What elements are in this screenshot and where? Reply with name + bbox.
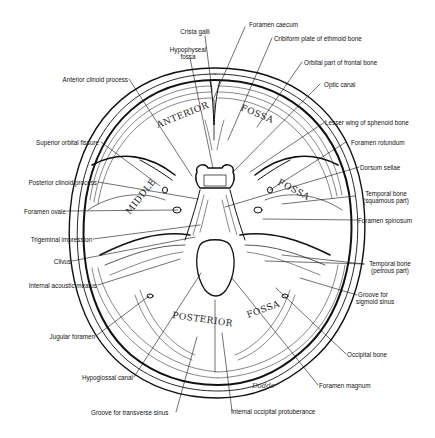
label-hypoglossal-canal: Hypoglossal canal [40,374,133,382]
label-hypophyseal-fossa-line2: fossa [163,53,213,61]
label-internal-acoustic-meatus: Internal acoustic meatus [10,282,97,290]
label-foramen-magnum: Foramen magnum [319,382,370,390]
label-trigeminal-impression: Trigeminal impression [10,236,92,244]
label-optic-canal: Optic canal [324,81,356,89]
label-superior-orbital-fissure: Superior orbital fissure [10,139,99,147]
label-orbital-part-frontal: Orbital part of frontal bone [304,59,377,67]
label-foramen-caecum: Foramen caecum [249,21,298,29]
label-foramen-ovale: Foramen ovale [10,208,66,216]
label-groove-sigmoid-line2: sigmoid sinus [356,298,394,306]
label-foramen-rotundum: Foramen rotundum [351,139,405,147]
artist-signature: Dodds [251,382,275,390]
label-anterior-clinoid: Anterior clinoid process [20,76,128,84]
label-crista-galli: Crista galli [170,28,220,36]
fossa-label-posterior: POSTERIOR [172,310,234,328]
fossa-label-anterior-fossa: FOSSA [239,103,275,125]
label-cribiform-plate: Cribiform plate of ethmoid bone [274,35,362,43]
label-internal-occipital-protuberance: Internal occipital protuberance [231,408,315,416]
label-jugular-foramen: Jugular foramen [20,333,95,341]
skull-base-diagram: ANTERIOR FOSSA MIDDLE FOSSA POSTERIOR FO… [0,0,435,438]
fossa-label-middle-fossa: FOSSA [276,177,311,202]
label-temporal-squamous-line2: (squamous part) [355,197,417,205]
label-groove-transverse-sinus: Groove for transverse sinus [91,409,168,417]
label-dorsum-sellae: Dorsum sellae [360,164,400,172]
label-lesser-wing-sphenoid: Lesser wing of sphenoid bone [325,119,409,127]
label-posterior-clinoid: Posterior clinoid process [10,179,97,187]
label-clivus: Clivus [30,258,71,266]
label-temporal-petrous-line2: (petrous part) [360,267,420,275]
label-foramen-spinosum: Foramen spinosum [358,217,412,225]
label-occipital-bone: Occipital bone [347,351,387,359]
